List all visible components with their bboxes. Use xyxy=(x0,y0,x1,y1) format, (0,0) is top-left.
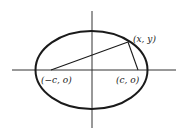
segment-left-focus-to-point xyxy=(51,42,128,70)
ellipse-diagram: (x, y) (−c, o) (c, o) xyxy=(0,0,185,135)
label-right-focus: (c, o) xyxy=(116,75,140,85)
label-point-xy: (x, y) xyxy=(133,34,156,44)
label-left-focus: (−c, o) xyxy=(41,75,72,85)
